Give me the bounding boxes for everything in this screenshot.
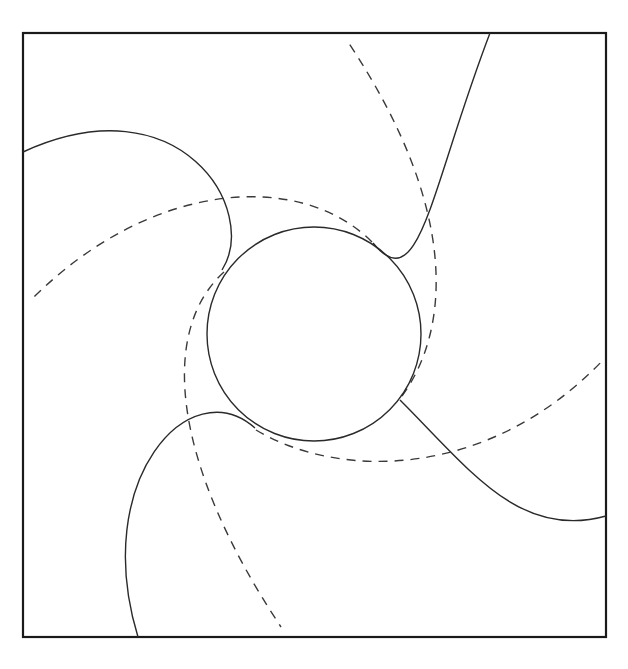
vane-right-curve	[400, 400, 606, 521]
diagram-frame	[23, 33, 606, 637]
streamline-top-curve	[348, 42, 436, 396]
solid-vane-curves	[23, 33, 606, 637]
streamline-right-curve	[256, 358, 605, 461]
vane-bottom-curve	[125, 412, 255, 637]
streamline-left-curve	[31, 197, 372, 300]
hub-circle	[207, 227, 421, 441]
streamline-bottom-curve	[184, 272, 281, 627]
dashed-streamline-curves	[31, 42, 605, 627]
vane-left-curve	[23, 131, 231, 270]
vane-top-curve	[373, 33, 490, 258]
spiral-vane-diagram	[0, 0, 628, 669]
